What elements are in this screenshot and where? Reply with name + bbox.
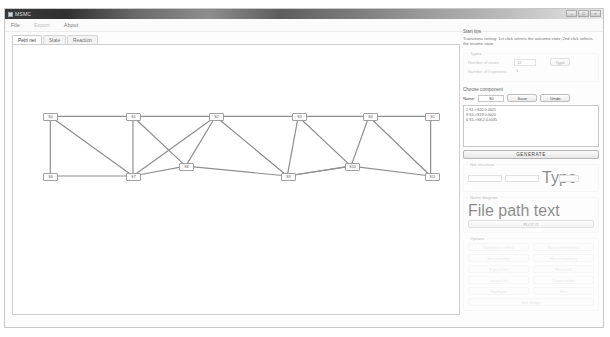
types-group: Types Number of states 12 Type Number of… xyxy=(463,53,599,82)
set-image-button[interactable]: Set image xyxy=(468,298,594,306)
graph-edge[interactable] xyxy=(369,116,431,176)
save-button[interactable]: Save xyxy=(507,94,537,102)
menu-item-export: Export xyxy=(34,22,50,28)
number-of-fragments-input[interactable]: 1 xyxy=(514,68,536,75)
net-structure-legend: Net structure xyxy=(468,162,496,167)
graph-node[interactable]: S4 xyxy=(363,113,378,121)
app-icon xyxy=(8,12,13,17)
options-button-grid: Transition colors Reset transitions Set … xyxy=(468,243,594,295)
graph-node[interactable]: S8 xyxy=(179,163,194,171)
number-of-states-row: Number of states 12 Type xyxy=(468,58,594,66)
graph-node[interactable]: S7 xyxy=(126,173,141,181)
reset-fill-button[interactable]: Reset fill xyxy=(533,265,594,273)
net-structure-fields: Type xyxy=(468,169,594,187)
menu-item-about[interactable]: About xyxy=(64,22,78,28)
graph-node[interactable]: S3 xyxy=(292,113,307,121)
graph-node[interactable]: S0 xyxy=(43,113,58,121)
graph-edge[interactable] xyxy=(287,116,298,176)
net-structure-field-2[interactable] xyxy=(505,175,539,182)
generate-button[interactable]: GENERATE xyxy=(463,150,599,159)
graph-node[interactable]: S2 xyxy=(209,113,224,121)
options-group: Options Transition colors Reset transiti… xyxy=(463,238,599,311)
graph-node[interactable]: S6 xyxy=(43,173,58,181)
diagram-path-label: File path text xyxy=(468,202,594,220)
graph-edge[interactable] xyxy=(216,116,288,176)
component-header: Name: S0 Save Undo xyxy=(463,94,599,102)
maximize-button[interactable]: □ xyxy=(578,10,589,17)
net-structure-group: Net structure Type xyxy=(463,164,599,192)
undo-button[interactable]: Undo xyxy=(540,94,570,102)
menu-item-file[interactable]: File xyxy=(11,22,20,28)
name-diagram-legend: Name diagram xyxy=(468,195,499,200)
plot-button[interactable]: PLOT IT xyxy=(468,220,594,228)
state-graph[interactable] xyxy=(13,45,459,314)
blur-button[interactable]: Blur xyxy=(533,287,594,295)
graph-node[interactable]: S10 xyxy=(345,163,360,171)
highlight-button[interactable]: Highlight xyxy=(468,287,529,295)
net-structure-tag-label: Type xyxy=(542,169,556,187)
start-tips-title: Start tips xyxy=(463,29,599,34)
graph-edge[interactable] xyxy=(351,166,431,176)
list-item[interactable]: 6 S1->S8-2 0.0035 xyxy=(466,118,596,123)
types-legend: Types xyxy=(468,51,483,56)
start-tips-text: Transitions setting: 1st click selects t… xyxy=(463,36,599,46)
number-of-states-label: Number of states xyxy=(468,60,514,65)
control-panel: Start tips Transitions setting: 1st clic… xyxy=(463,29,599,325)
set-marking-button[interactable]: Set marking xyxy=(468,254,529,262)
options-legend: Options xyxy=(468,236,486,241)
graph-edge[interactable] xyxy=(186,116,216,166)
application-window: MSMC – □ × File Export About Petri net S… xyxy=(4,8,604,328)
graph-node[interactable]: S11 xyxy=(425,173,440,181)
graph-edge[interactable] xyxy=(287,166,351,176)
number-of-fragments-label: Number of fragments xyxy=(468,69,514,74)
window-title: MSMC xyxy=(15,11,31,17)
reset-marking-button[interactable]: Reset marking xyxy=(533,254,594,262)
create-folder-button[interactable]: Create folder xyxy=(533,276,594,284)
window-controls[interactable]: – □ × xyxy=(566,10,601,17)
choose-component-title: Choose component xyxy=(463,87,599,92)
net-structure-field-3[interactable] xyxy=(559,175,579,182)
net-structure-field-1[interactable] xyxy=(468,175,502,182)
minimize-button[interactable]: – xyxy=(566,10,577,17)
export-file-button[interactable]: Export file xyxy=(468,265,529,273)
graph-edge[interactable] xyxy=(133,116,186,166)
graph-canvas[interactable]: S0S1S2S3S4S5S6S7S8S9S10S11 xyxy=(12,44,460,315)
component-name-label: Name: xyxy=(463,96,475,101)
transition-colors-button[interactable]: Transition colors xyxy=(468,243,529,251)
graph-edge[interactable] xyxy=(298,116,351,166)
close-button[interactable]: × xyxy=(590,10,601,17)
graph-edge[interactable] xyxy=(133,116,216,176)
import-file-button[interactable]: Import file xyxy=(468,276,529,284)
graph-edge[interactable] xyxy=(50,116,133,176)
title-bar: MSMC – □ × xyxy=(5,9,603,19)
reset-transitions-button[interactable]: Reset transitions xyxy=(533,243,594,251)
number-of-fragments-row: Number of fragments 1 xyxy=(468,68,594,75)
graph-edge[interactable] xyxy=(186,166,288,176)
type-apply-button[interactable]: Type xyxy=(550,58,570,66)
number-of-states-input[interactable]: 12 xyxy=(514,59,536,66)
name-diagram-group: Name diagram File path text PLOT IT xyxy=(463,197,599,233)
graph-node[interactable]: S5 xyxy=(425,113,440,121)
graph-node[interactable]: S1 xyxy=(126,113,141,121)
graph-node[interactable]: S9 xyxy=(281,173,296,181)
graph-edge[interactable] xyxy=(351,116,369,166)
component-name-input[interactable]: S0 xyxy=(478,95,504,102)
component-list[interactable]: 2 S1->S20 0.0025 9 S1->S19 0.0020 6 S1->… xyxy=(463,105,599,147)
